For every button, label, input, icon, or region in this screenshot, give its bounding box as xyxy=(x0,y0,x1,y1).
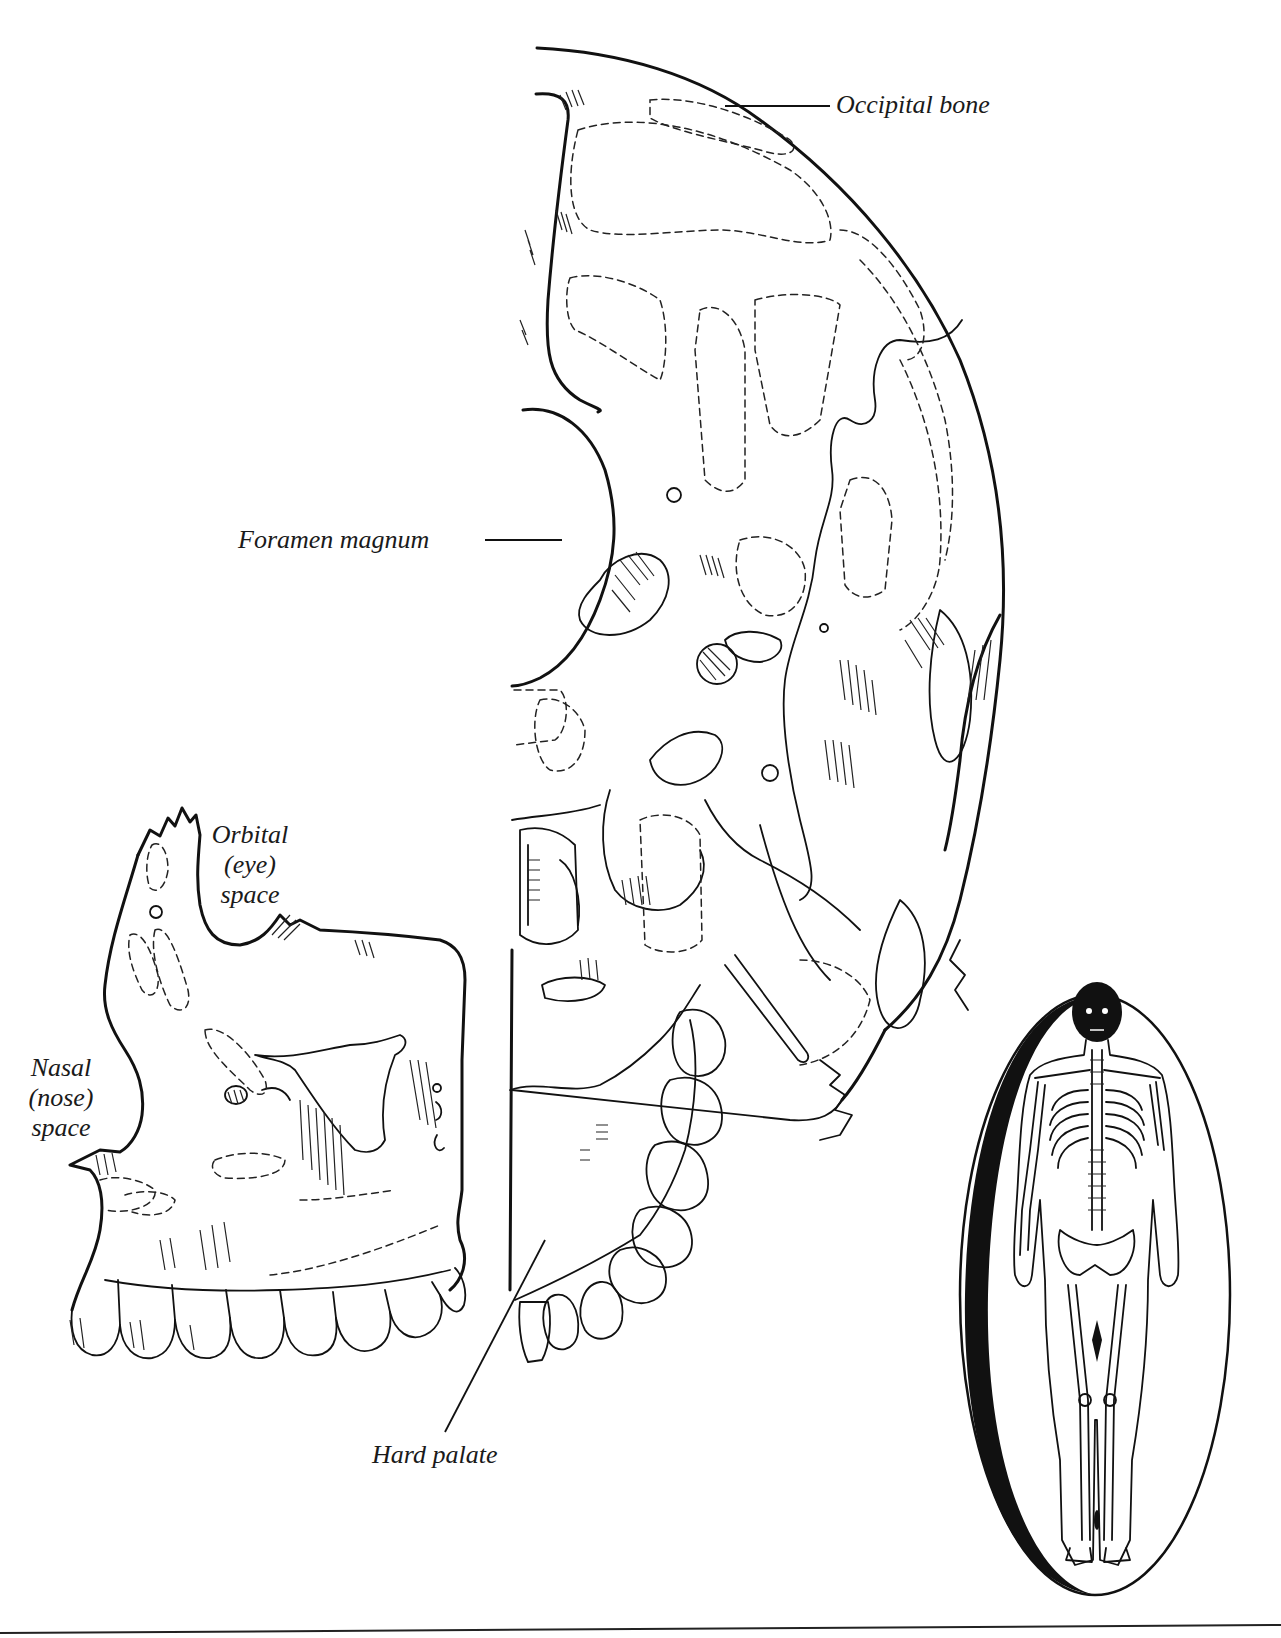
ribcage xyxy=(1050,1090,1144,1168)
label-nasal-space: Nasal (nose) space xyxy=(22,1053,100,1143)
leader-lines xyxy=(445,106,830,1432)
skull-line-art xyxy=(0,0,1281,1638)
label-occipital-bone: Occipital bone xyxy=(836,90,990,120)
label-nasal-line-2: (nose) xyxy=(22,1083,100,1113)
maxilla-teeth xyxy=(72,1268,466,1358)
hard-palate-leader xyxy=(445,1240,545,1432)
skeleton-inset xyxy=(960,982,1230,1595)
label-orbital-line-3: space xyxy=(210,880,290,910)
bottom-rule xyxy=(0,1625,1281,1633)
label-orbital-space: Orbital (eye) space xyxy=(210,820,290,910)
label-nasal-line-3: space xyxy=(22,1113,100,1143)
label-hard-palate: Hard palate xyxy=(372,1440,497,1470)
label-nasal-line-1: Nasal xyxy=(22,1053,100,1083)
upper-teeth-right xyxy=(519,1010,725,1362)
anatomy-figure: Occipital bone Foramen magnum Orbital (e… xyxy=(0,0,1281,1638)
skull-base-drawing xyxy=(510,48,1004,1362)
label-orbital-line-1: Orbital xyxy=(210,820,290,850)
label-orbital-line-2: (eye) xyxy=(210,850,290,880)
label-foramen-magnum: Foramen magnum xyxy=(238,525,429,555)
